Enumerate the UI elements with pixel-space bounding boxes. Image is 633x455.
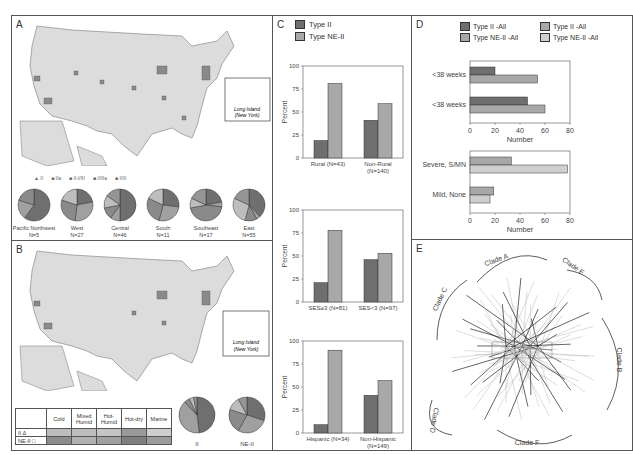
y-tick-label: 0 xyxy=(296,299,300,305)
panel-c: C Type IIType NE-II 0255075100PercentRur… xyxy=(272,15,412,451)
y-tick-label: <38 weeks xyxy=(432,71,466,78)
y-tick-label: 50 xyxy=(292,384,299,390)
region-count: N=11 xyxy=(157,232,170,238)
pie-label: II xyxy=(195,441,199,447)
legend-item: ■ IIa xyxy=(51,175,61,181)
clade-label: Clade E xyxy=(561,256,586,276)
clade-label: Clade C xyxy=(431,286,448,312)
bar xyxy=(378,253,392,302)
pie-legend: ▲ II■ IIa■ II-I/III■ I/IIIa■ I/III xyxy=(34,175,126,181)
clade-label: Clade B xyxy=(616,348,623,373)
bar xyxy=(328,230,342,302)
network-branch xyxy=(522,288,571,354)
legend-item: ■ II-I/III xyxy=(69,175,85,181)
y-tick-label: 0 xyxy=(296,155,300,161)
bar xyxy=(470,165,568,173)
table-cell xyxy=(72,429,97,437)
hawaii-shape xyxy=(77,146,107,166)
table-cell xyxy=(97,429,122,437)
region-name: West xyxy=(71,225,84,231)
region-pie-slice xyxy=(190,205,222,221)
region-name: Southeast xyxy=(194,225,219,231)
x-tick-label: 40 xyxy=(516,217,524,224)
y-tick-label: 75 xyxy=(292,86,299,92)
inset-label: Long Island xyxy=(233,339,259,345)
bar xyxy=(314,141,328,158)
table-row-label: NE-II □ xyxy=(16,437,47,445)
network-branch xyxy=(522,346,563,412)
us-map-a: Long Island (New York) xyxy=(12,16,272,166)
x-tick-label: SES≥3 (N=81) xyxy=(309,305,348,311)
region-count: N=27 xyxy=(70,232,83,238)
pie-label: NE-II xyxy=(240,441,254,447)
region-name: South xyxy=(156,225,170,231)
bar xyxy=(364,395,378,433)
x-tick-label: 60 xyxy=(541,127,549,134)
y-tick-label: 100 xyxy=(289,63,300,69)
region-count: N=55 xyxy=(242,232,255,238)
x-tick-label: 20 xyxy=(491,127,499,134)
x-axis-label: Number xyxy=(507,135,534,144)
table-cell xyxy=(97,437,122,445)
x-tick-label: Non-Rural xyxy=(364,161,391,167)
x-tick-label: 80 xyxy=(566,127,574,134)
legend-item: ■ I/III xyxy=(115,175,126,181)
x-tick-label: 80 xyxy=(566,217,574,224)
y-axis-label: Percent xyxy=(281,376,288,399)
x-tick-label: 20 xyxy=(491,217,499,224)
x-axis-label: Number xyxy=(507,225,534,234)
bar xyxy=(470,187,494,195)
x-tick-label: 0 xyxy=(468,217,472,224)
region-name: East xyxy=(243,225,254,231)
network-branch xyxy=(497,350,530,411)
region-name: Pacific Northwest xyxy=(13,225,56,231)
y-tick-label: 75 xyxy=(292,230,299,236)
network-branch xyxy=(465,354,506,398)
bar xyxy=(378,381,392,433)
region-count: N=5 xyxy=(29,232,39,238)
region-pie-slice xyxy=(120,189,136,221)
y-axis-label: Percent xyxy=(281,101,288,124)
clade-label: Clade A xyxy=(483,252,509,267)
table-header: Hot-Humid xyxy=(97,409,122,429)
table-header: Cold xyxy=(47,409,72,429)
y-axis-label: Percent xyxy=(281,245,288,268)
table-cell xyxy=(147,429,172,437)
bar xyxy=(378,104,392,158)
panel-b: B Long Island (New York) ColdMixed Humid… xyxy=(11,240,273,451)
table-corner xyxy=(16,409,47,429)
bar xyxy=(470,157,511,165)
region-pies: Pacific NorthwestN=5WestN=27CentralN=46S… xyxy=(12,183,274,243)
bar xyxy=(470,105,545,113)
network-branch xyxy=(538,335,557,346)
table-cell xyxy=(147,437,172,445)
climate-table: ColdMixed HumidHot-HumidHot-dryMarineII … xyxy=(15,408,172,445)
x-tick-label: Hispanic (N=34) xyxy=(306,436,349,442)
panel-c-charts: 0255075100PercentRural (N=43)Non-Rural(N… xyxy=(273,16,413,452)
network-branch xyxy=(514,278,521,346)
region-name: Central xyxy=(111,225,129,231)
table-cell xyxy=(122,429,147,437)
table-header: Marine xyxy=(147,409,172,429)
x-tick-label: 40 xyxy=(516,127,524,134)
y-tick-label: <38 weeks xyxy=(432,101,466,108)
bar xyxy=(314,283,328,302)
region-count: N=46 xyxy=(113,232,126,238)
bar xyxy=(328,83,342,158)
y-tick-label: 100 xyxy=(289,207,300,213)
clade-label: Clade F xyxy=(515,439,540,446)
x-tick-label: (N=140) xyxy=(367,168,389,174)
bar xyxy=(364,120,378,158)
network-branch xyxy=(538,354,549,390)
network-branch xyxy=(514,313,589,346)
hawaii-shape xyxy=(77,371,107,391)
panel-d: D Type II -AllType II -AllType NE-II -Al… xyxy=(411,15,633,240)
network-branch xyxy=(514,350,550,416)
y-tick-label: 50 xyxy=(292,253,299,259)
x-tick-label: 0 xyxy=(468,127,472,134)
x-tick-label: 60 xyxy=(541,217,549,224)
bar xyxy=(470,67,495,75)
legend-item: ■ I/IIIa xyxy=(93,175,107,181)
bar xyxy=(364,260,378,302)
alaska-shape xyxy=(20,346,74,391)
